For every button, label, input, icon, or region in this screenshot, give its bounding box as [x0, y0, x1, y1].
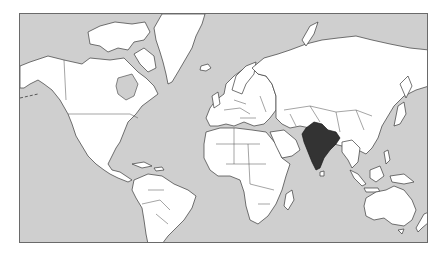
world-map-svg [20, 14, 428, 243]
philippines [384, 150, 390, 164]
baffin-island [134, 48, 156, 72]
hispaniola [154, 167, 164, 171]
madagascar [284, 190, 294, 210]
date-line [20, 94, 38, 98]
japan [394, 102, 406, 126]
arctic-islands [88, 22, 150, 52]
tasmania [398, 229, 404, 234]
world-map [19, 13, 428, 243]
cuba [132, 162, 152, 168]
south-america [132, 174, 196, 243]
borneo [370, 166, 384, 182]
iceland [200, 64, 211, 71]
sumatra [350, 170, 366, 186]
greenland [154, 14, 205, 84]
new-zealand [416, 212, 428, 232]
sri-lanka [320, 171, 324, 176]
new-guinea [390, 174, 414, 184]
